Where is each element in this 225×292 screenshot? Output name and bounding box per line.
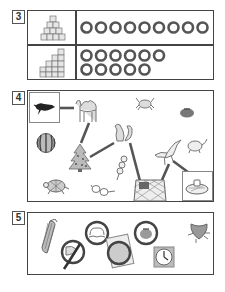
corn-icon[interactable] (39, 219, 59, 255)
persimmon-icon[interactable] (179, 106, 195, 118)
mouse-icon[interactable] (186, 138, 208, 154)
ramen-end-box[interactable] (182, 171, 213, 201)
clock-icon[interactable] (153, 246, 175, 268)
watermelon-icon[interactable] (36, 131, 56, 153)
crab-icon[interactable] (135, 96, 155, 111)
section-4-box (27, 90, 214, 202)
column-divider (75, 11, 77, 79)
christmas-tree-icon[interactable] (68, 143, 92, 173)
section-5-number: 5 (12, 211, 25, 225)
seagull-icon[interactable] (153, 137, 183, 167)
bug-icon[interactable] (186, 219, 212, 245)
circle-row-2b (80, 63, 156, 76)
tomato-circled-icon[interactable] (133, 220, 159, 246)
crow-start-box[interactable] (29, 92, 60, 123)
net-bag-icon[interactable] (132, 178, 168, 203)
circle-row-1 (80, 21, 212, 34)
circle-row-2a (80, 49, 170, 62)
section-4-number: 4 (12, 91, 25, 105)
cube-pyramid-figure (39, 15, 67, 41)
dango-icon[interactable] (114, 153, 128, 181)
camel-icon[interactable] (72, 96, 102, 124)
squirrel-icon[interactable] (111, 121, 135, 145)
row-divider (28, 44, 213, 46)
section-3-box (27, 10, 214, 80)
turtle-icon[interactable] (42, 177, 70, 195)
section-3-number: 3 (12, 10, 25, 24)
fish-crossed-icon[interactable] (60, 239, 86, 271)
ramen-bowl-icon (183, 172, 211, 199)
photo-circled-icon[interactable] (104, 233, 136, 271)
glasses-icon[interactable] (90, 183, 116, 197)
cube-tower-figure (38, 48, 68, 78)
crow-icon (30, 93, 58, 121)
section-5-box (27, 212, 214, 275)
